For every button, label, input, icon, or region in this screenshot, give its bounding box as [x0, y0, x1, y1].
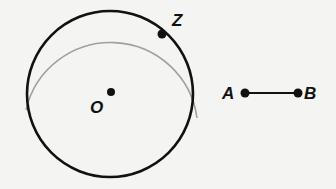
point-b [294, 89, 303, 98]
point-z [158, 30, 167, 39]
point-a [241, 89, 250, 98]
label-a: A [221, 84, 234, 103]
label-z: Z [171, 11, 183, 30]
label-b: B [304, 84, 316, 103]
point-o [107, 88, 115, 96]
label-o: O [90, 98, 103, 117]
geometry-diagram: O Z A B [0, 0, 336, 189]
faint-arc [26, 43, 197, 118]
